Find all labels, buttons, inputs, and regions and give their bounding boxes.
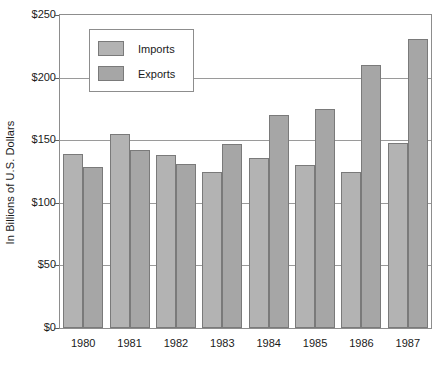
legend-item-exports[interactable]: Exports xyxy=(90,61,193,86)
legend-label: Exports xyxy=(138,68,175,80)
bar-group xyxy=(341,15,381,328)
bar-imports-1983 xyxy=(202,172,222,329)
bar-imports-1982 xyxy=(156,155,176,328)
y-tick-label: $150 xyxy=(12,133,56,145)
bar-exports-1980 xyxy=(83,167,103,329)
y-tick-mark xyxy=(54,265,59,266)
bar-exports-1983 xyxy=(222,144,242,328)
chart-legend: ImportsExports xyxy=(89,29,194,92)
bar-exports-1986 xyxy=(361,65,381,328)
bar-exports-1981 xyxy=(130,150,150,328)
bar-group xyxy=(388,15,428,328)
y-axis-title: In Billions of U.S. Dollars xyxy=(2,0,18,365)
bar-imports-1987 xyxy=(388,143,408,328)
y-tick-mark xyxy=(54,140,59,141)
legend-swatch-exports xyxy=(98,66,124,81)
x-tick-label: 1987 xyxy=(378,337,438,349)
bar-imports-1986 xyxy=(341,172,361,329)
y-tick-mark xyxy=(54,78,59,79)
y-tick-mark xyxy=(54,328,59,329)
y-tick-label: $200 xyxy=(12,71,56,83)
y-tick-label: $100 xyxy=(12,196,56,208)
bar-chart: In Billions of U.S. Dollars $0$50$100$15… xyxy=(0,0,443,365)
bar-group xyxy=(295,15,335,328)
bar-exports-1985 xyxy=(315,109,335,328)
bar-imports-1984 xyxy=(249,158,269,328)
legend-item-imports[interactable]: Imports xyxy=(90,36,193,61)
y-tick-mark xyxy=(54,203,59,204)
bar-exports-1982 xyxy=(176,164,196,328)
y-tick-mark xyxy=(54,15,59,16)
bar-exports-1984 xyxy=(269,115,289,328)
legend-label: Imports xyxy=(138,43,175,55)
bar-imports-1980 xyxy=(63,154,83,328)
bar-group xyxy=(249,15,289,328)
y-tick-label: $250 xyxy=(12,8,56,20)
bar-group xyxy=(202,15,242,328)
bar-imports-1981 xyxy=(110,134,130,328)
bar-imports-1985 xyxy=(295,165,315,328)
legend-swatch-imports xyxy=(98,41,124,56)
bar-exports-1987 xyxy=(408,39,428,328)
y-tick-label: $50 xyxy=(12,258,56,270)
y-tick-label: $0 xyxy=(12,321,56,333)
